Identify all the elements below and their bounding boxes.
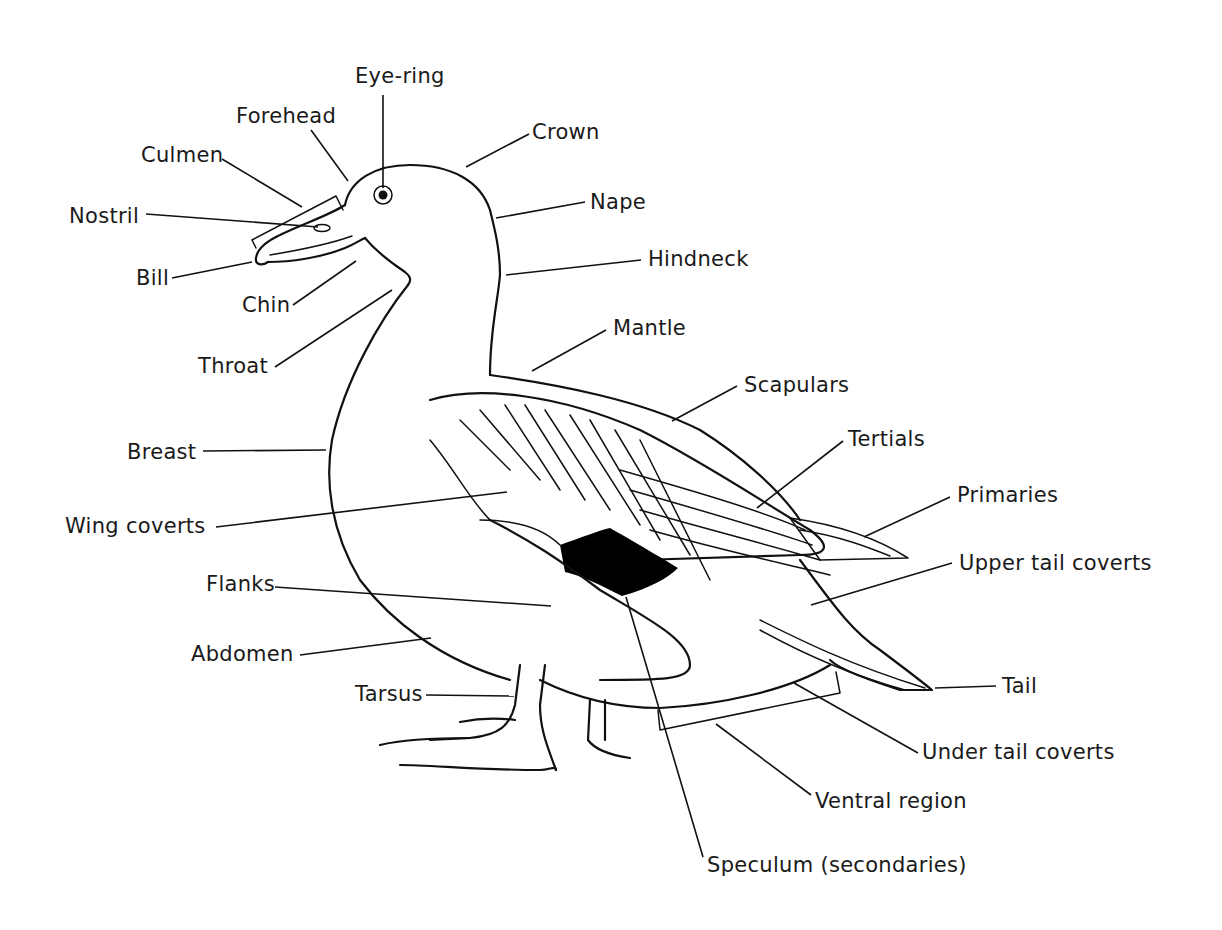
leader-line-scapulars — [672, 386, 737, 421]
label-culmen: Culmen — [141, 145, 223, 166]
leader-line-tertials — [757, 441, 843, 508]
leader-line-nape — [496, 202, 585, 218]
nostril-mark — [314, 225, 330, 232]
leader-line-chin — [293, 261, 356, 305]
label-abdomen: Abdomen — [191, 644, 294, 665]
leader-line-forehead — [311, 130, 348, 181]
underside-outline — [540, 665, 830, 708]
label-hindneck: Hindneck — [648, 249, 749, 270]
leader-line-culmen — [222, 159, 302, 207]
speculum-patch — [560, 528, 678, 596]
duck-anatomy-diagram: Eye-ringForeheadCrownCulmenNapeNostrilHi… — [0, 0, 1222, 930]
label-upper-tail-coverts: Upper tail coverts — [959, 553, 1152, 574]
tail-lines — [760, 620, 925, 690]
eye-pupil — [379, 191, 388, 200]
label-nostril: Nostril — [69, 206, 139, 227]
leg-front — [430, 665, 556, 770]
leg-back — [588, 700, 630, 758]
leader-line-ventral-region — [716, 724, 811, 795]
breast-outline — [329, 285, 510, 680]
throat-outline — [365, 238, 410, 285]
label-eye-ring: Eye-ring — [355, 66, 445, 87]
label-chin: Chin — [242, 295, 290, 316]
label-nape: Nape — [590, 192, 646, 213]
leader-line-nostril — [146, 214, 318, 227]
leader-line-abdomen — [300, 638, 431, 655]
label-tertials: Tertials — [848, 429, 925, 450]
leader-line-throat — [275, 290, 392, 367]
label-crown: Crown — [532, 122, 600, 143]
label-flanks: Flanks — [206, 574, 275, 595]
label-breast: Breast — [127, 442, 196, 463]
leader-lines — [146, 95, 996, 857]
label-mantle: Mantle — [613, 318, 686, 339]
leader-line-breast — [203, 450, 326, 451]
leader-line-crown — [466, 134, 529, 167]
leader-line-tail — [935, 686, 996, 688]
duck-illustration — [0, 0, 1222, 930]
label-wing-coverts: Wing coverts — [65, 516, 206, 537]
foot-front — [380, 719, 556, 770]
wing-outline — [430, 393, 824, 560]
label-bill: Bill — [136, 268, 169, 289]
leader-line-upper-tail-coverts — [811, 563, 952, 605]
leader-line-flanks — [275, 587, 551, 606]
leader-line-bill — [172, 262, 252, 278]
leader-line-under-tail-coverts — [794, 683, 918, 753]
label-primaries: Primaries — [957, 485, 1058, 506]
label-tail: Tail — [1002, 676, 1037, 697]
label-speculum: Speculum (secondaries) — [707, 855, 967, 876]
label-tarsus: Tarsus — [355, 684, 423, 705]
bill-line — [270, 236, 352, 255]
duck-drawing — [252, 165, 932, 770]
bill-lower — [268, 238, 365, 262]
leader-line-hindneck — [506, 260, 641, 275]
label-ventral-region: Ventral region — [815, 791, 967, 812]
label-throat: Throat — [198, 356, 268, 377]
ventral-bracket — [658, 672, 840, 730]
label-scapulars: Scapulars — [744, 375, 849, 396]
leader-line-mantle — [532, 330, 606, 371]
leader-line-wing-coverts — [216, 492, 507, 527]
label-forehead: Forehead — [236, 106, 336, 127]
leader-line-tarsus — [426, 695, 514, 696]
leader-line-primaries — [864, 497, 950, 537]
label-under-tail-coverts: Under tail coverts — [922, 742, 1115, 763]
leader-line-speculum — [626, 597, 703, 857]
